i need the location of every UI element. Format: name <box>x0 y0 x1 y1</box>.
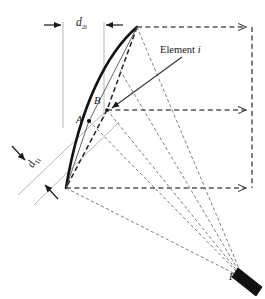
focal-rays <box>66 27 243 278</box>
label-element-i: Element i <box>160 45 201 56</box>
reflector-focus-diagram <box>0 0 265 299</box>
label-d2i: d2i <box>76 17 87 31</box>
point-b-marker <box>105 108 109 112</box>
focal-ray-from-apex <box>137 27 243 278</box>
label-focal-point-f: F <box>229 272 235 283</box>
element-leader-line <box>112 57 182 108</box>
focal-ray-from-b <box>107 110 243 278</box>
label-point-b: B <box>94 96 100 107</box>
point-a-marker <box>87 119 91 123</box>
d2i-guide-lines <box>63 22 104 128</box>
label-element-index: i <box>198 44 201 55</box>
label-point-a: A <box>76 115 82 126</box>
transducer-body <box>232 268 262 296</box>
label-d2i-subscript: 2i <box>82 23 87 31</box>
d1i-dimension-arrows <box>12 146 58 199</box>
focal-ray-from-base <box>66 188 243 278</box>
horizontal-rays <box>66 27 246 188</box>
focal-ray-from-a <box>89 121 243 278</box>
figure-root: d2i d1i A B F Element i · · · · · · · <box>0 0 265 299</box>
cropped-caption-strip: · · · · · · · <box>0 294 265 299</box>
